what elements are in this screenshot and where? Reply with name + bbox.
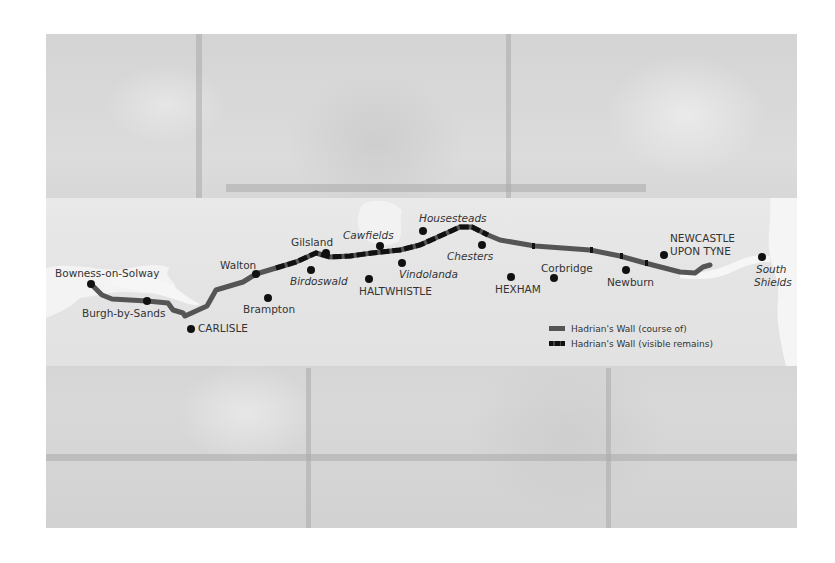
place-dot-cawfields xyxy=(376,242,384,250)
legend-item-course: Hadrian's Wall (course of) xyxy=(549,321,713,336)
place-dot-chesters xyxy=(478,241,486,249)
place-dot-south-shields xyxy=(758,253,766,261)
label-housesteads: Housesteads xyxy=(419,212,487,224)
label-vindolanda: Vindolanda xyxy=(399,268,458,280)
place-dot-newburn xyxy=(622,266,630,274)
legend-label: Hadrian's Wall (visible remains) xyxy=(571,339,713,349)
legend-item-visible: Hadrian's Wall (visible remains) xyxy=(549,336,713,351)
label-south: South xyxy=(756,263,787,275)
label-walton: Walton xyxy=(220,259,256,271)
wall-visible-swatch-icon xyxy=(549,341,565,346)
label-upon-tyne: UPON TYNE xyxy=(670,245,731,257)
place-dot-newcastle xyxy=(660,251,668,259)
place-dot-walton xyxy=(252,270,260,278)
wall-course-swatch-icon xyxy=(549,326,565,331)
place-dot-bowness xyxy=(87,280,95,288)
place-dot-vindolanda xyxy=(398,259,406,267)
place-dot-housesteads xyxy=(419,227,427,235)
label-chesters: Chesters xyxy=(447,250,493,262)
map-legend: Hadrian's Wall (course of) Hadrian's Wal… xyxy=(549,321,713,351)
label-newburn: Newburn xyxy=(607,276,654,288)
map-graphics xyxy=(0,0,835,563)
label-cawfields: Cawfields xyxy=(343,229,394,241)
legend-label: Hadrian's Wall (course of) xyxy=(571,324,687,334)
place-dot-burgh xyxy=(143,297,151,305)
label-haltwhistle: HALTWHISTLE xyxy=(359,285,432,297)
place-dot-brampton xyxy=(264,294,272,302)
label-corbridge: Corbridge xyxy=(541,262,593,274)
label-newcastle: NEWCASTLE xyxy=(670,232,735,244)
label-brampton: Brampton xyxy=(243,303,295,315)
label-burgh-by-sands: Burgh-by-Sands xyxy=(82,307,165,319)
place-dot-birdoswald xyxy=(307,266,315,274)
place-dot-corbridge xyxy=(550,274,558,282)
label-gilsland: Gilsland xyxy=(291,236,333,248)
label-birdoswald: Birdoswald xyxy=(290,275,348,287)
place-dot-haltwhistle xyxy=(365,275,373,283)
place-dot-carlisle xyxy=(187,325,195,333)
place-dot-gilsland xyxy=(322,249,330,257)
place-dot-hexham xyxy=(507,273,515,281)
label-shields: Shields xyxy=(754,276,792,288)
label-hexham: HEXHAM xyxy=(495,283,541,295)
label-bowness-on-solway: Bowness-on-Solway xyxy=(55,267,159,279)
label-carlisle: CARLISLE xyxy=(198,322,248,334)
